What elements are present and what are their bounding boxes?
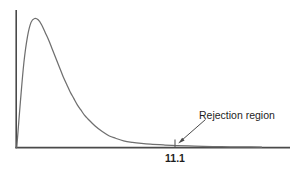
- critical-value-label: 11.1: [165, 152, 185, 164]
- density-curve: [17, 18, 262, 147]
- rejection-region-label: Rejection region: [199, 109, 275, 121]
- chi-square-rejection-region-figure: Rejection region 11.1: [0, 0, 302, 171]
- distribution-plot: Rejection region 11.1: [0, 0, 302, 171]
- callout-leader-line: [182, 120, 206, 141]
